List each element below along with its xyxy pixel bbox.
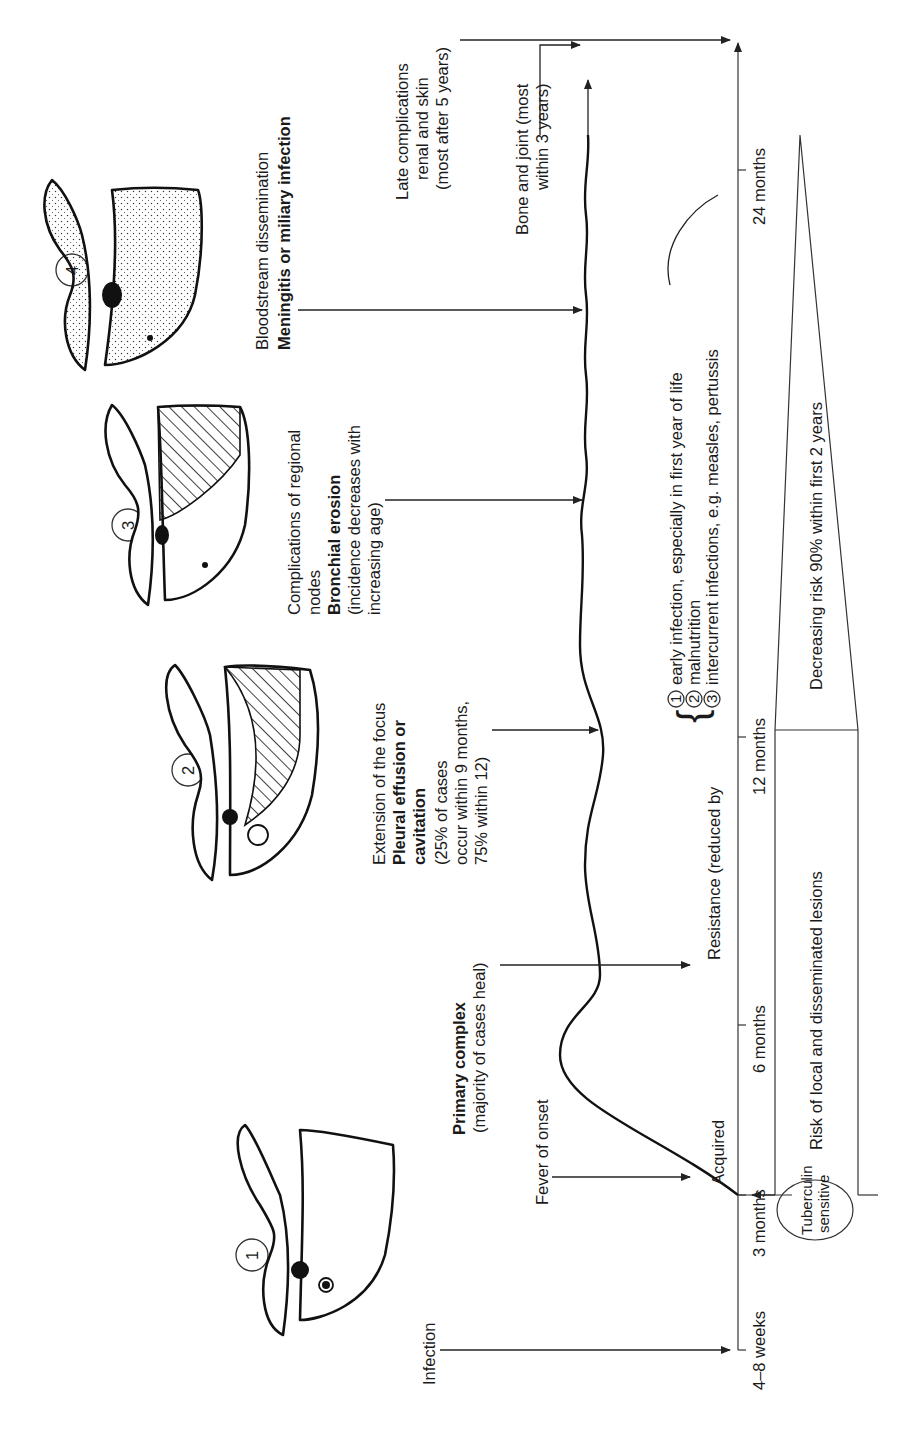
bone-joint-line-2: within 3 years): [533, 84, 551, 191]
stage-1-note: (majority of cases heal): [470, 962, 488, 1133]
tick-12-months: 12 months: [750, 718, 768, 795]
stage-2-heading-bold-1: Pleural effusion or: [390, 720, 408, 865]
stage-4-focus: [147, 335, 153, 341]
late-line-3: (most after 5 years): [433, 47, 451, 190]
tick-4-8-weeks: 4–8 weeks: [750, 1311, 768, 1390]
stage-3: 3 Complications of regional nodes Bronch…: [106, 405, 582, 615]
svg-text:early infection, especially in: early infection, especially in first yea…: [667, 372, 685, 685]
stage-3-heading-bold: Bronchial erosion: [325, 475, 343, 615]
svg-text:1: 1: [667, 695, 684, 703]
svg-text:3: 3: [703, 695, 720, 703]
tuberculin-sensitive-badge: Tuberculin sensitive: [777, 1166, 853, 1240]
factors-close-bracket: [668, 195, 718, 285]
stage-2-note-2: occur within 9 months,: [452, 701, 470, 865]
bone-joint-line-1: Bone and joint (most: [513, 83, 531, 235]
svg-text:malnutrition: malnutrition: [685, 600, 703, 685]
stage-2-note-1: (25% of cases: [432, 760, 450, 865]
stage-4-heading-plain: Bloodstream dissemination: [253, 152, 271, 350]
stage-1: 1 Primary complex (majority of cases hea…: [236, 962, 690, 1335]
stage-1-ghon-focus: [322, 1281, 330, 1289]
stage-2-heading-bold-2: cavitation: [410, 788, 428, 865]
svg-text:intercurrent infections, e.g.: intercurrent infections, e.g. measles, p…: [703, 349, 721, 685]
stage-1-left-lung: [300, 1130, 394, 1320]
risk-label: Risk of local and disseminated lesions: [807, 871, 825, 1150]
stage-2: 2 Extension of the focus Pleural effusio…: [166, 665, 598, 880]
factor-1: 1 early infection, especially in first y…: [667, 372, 685, 707]
infection-event: Infection: [420, 1323, 730, 1385]
late-line-1: Late complications: [393, 63, 411, 200]
resistance-factors: { 1 early infection, especially in first…: [667, 195, 721, 723]
svg-text:2: 2: [685, 695, 702, 703]
infection-label: Infection: [420, 1323, 438, 1385]
factor-3: 3 intercurrent infections, e.g. measles,…: [703, 349, 721, 707]
factors-brace: {: [670, 710, 714, 723]
stage-1-heading: Primary complex: [450, 1001, 468, 1135]
bone-joint-event: Bone and joint (most within 3 years): [513, 45, 580, 235]
stage-1-number: 1: [243, 1251, 261, 1260]
time-axis: [738, 43, 746, 1350]
acquired-label: Acquired: [709, 1120, 727, 1185]
tick-24-months: 24 months: [750, 148, 768, 225]
tick-6-months: 6 months: [750, 1005, 768, 1073]
stage-3-heading-plain-1: Complications of regional: [285, 430, 303, 615]
tb-timeline-diagram: 4–8 weeks 3 months 6 months 12 months 24…: [0, 0, 897, 1435]
stage-1-hilar-node: [291, 1261, 309, 1279]
stage-3-heading-plain-2: nodes: [305, 570, 323, 615]
stage-3-note-1: (incidence decreases with: [345, 425, 363, 615]
fever-label: Fever of onset: [533, 1099, 551, 1205]
stage-2-number: 2: [179, 766, 197, 775]
stage-2-heading-plain: Extension of the focus: [370, 703, 388, 865]
stage-2-hilar-node: [222, 809, 238, 825]
stage-1-right-lung: [238, 1125, 288, 1335]
late-complications-event: Late complications renal and skin (most …: [393, 40, 730, 200]
tuberculin-line-2: sensitive: [815, 1175, 832, 1233]
decreasing-risk-label: Decreasing risk 90% within first 2 years: [807, 402, 825, 690]
stage-3-focus: [202, 562, 208, 568]
timeline-tick-labels: 4–8 weeks 3 months 6 months 12 months 24…: [750, 148, 768, 1390]
stage-3-right-lung: [106, 405, 153, 605]
stage-4-left-lung: [105, 188, 202, 365]
stage-4: 4 Bloodstream dissemination Meningitis o…: [44, 116, 582, 370]
late-line-2: renal and skin: [413, 77, 431, 180]
stage-2-cavity: [248, 825, 268, 845]
stage-3-hilar-node: [155, 525, 169, 545]
stage-3-note-2: increasing age): [365, 502, 383, 615]
resistance-label: Resistance (reduced by: [705, 786, 723, 960]
tuberculin-line-1: Tuberculin: [798, 1166, 815, 1235]
tick-3-months: 3 months: [750, 1189, 768, 1257]
stage-4-heading-bold: Meningitis or miliary infection: [275, 116, 293, 350]
stage-4-hilar-node: [102, 282, 122, 308]
factor-2: 2 malnutrition: [685, 600, 703, 707]
stage-2-note-3: 75% within 12): [472, 757, 490, 865]
